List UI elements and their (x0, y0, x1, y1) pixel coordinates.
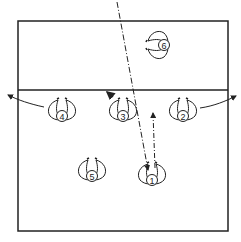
player-4: 4 (48, 98, 75, 122)
player-4-number: 4 (59, 112, 64, 122)
ball-trajectory-line (117, 2, 148, 170)
player-1: 1 (138, 162, 165, 186)
player-3: 3 (109, 98, 136, 122)
player-4-movement-arrow (8, 95, 44, 107)
player-1-number: 1 (149, 176, 154, 186)
player-3-number: 3 (120, 112, 125, 122)
court-boundary (18, 21, 228, 231)
player-5: 5 (78, 158, 105, 182)
player-5-number: 5 (89, 172, 94, 182)
player-2-number: 2 (180, 112, 185, 122)
volleyball-court-diagram: 6 4 3 2 5 1 (0, 0, 241, 242)
player-3-turn-arrow (107, 92, 113, 97)
player-6: 6 (146, 31, 170, 58)
player-2-movement-arrow (200, 96, 236, 108)
player-6-number: 6 (161, 41, 166, 51)
player-1-movement-arrow (153, 113, 155, 168)
player-2: 2 (169, 98, 196, 122)
